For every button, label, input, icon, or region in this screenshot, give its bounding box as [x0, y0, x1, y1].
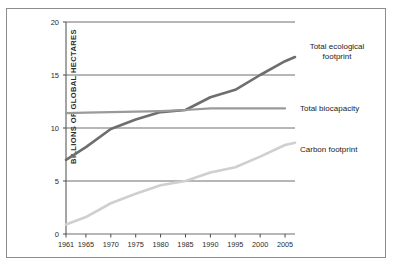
axis-ticks [63, 22, 285, 238]
y-tick-label-20: 20 [37, 18, 59, 27]
series-lines [66, 57, 295, 224]
y-tick-label-0: 0 [37, 230, 59, 239]
series-line-carbon-footprint [66, 143, 295, 225]
gridlines [66, 22, 295, 234]
series-label-carbon-footprint: Carbon footprint [300, 145, 357, 155]
series-line-total-biocapacity [66, 108, 285, 113]
series-label-total-ecological-footprint: Total ecological footprint [300, 42, 374, 62]
x-tick-label-2005: 2005 [270, 240, 300, 249]
series-label-total-biocapacity: Total biocapacity [300, 104, 359, 114]
chart-canvas [0, 0, 394, 266]
chart-figure: BILLIONS OF GLOBAL HECTARES 05101520 196… [0, 0, 394, 266]
y-tick-label-15: 15 [37, 71, 59, 80]
y-tick-label-10: 10 [37, 124, 59, 133]
y-tick-label-5: 5 [37, 177, 59, 186]
